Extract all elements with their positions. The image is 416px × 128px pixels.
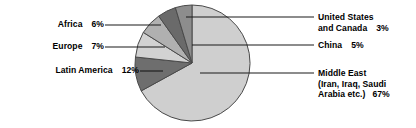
label-europe-value: 7% [91, 41, 104, 52]
label-united-states-canada: United States and Canada3% [318, 12, 414, 33]
label-china-value: 5% [351, 40, 364, 51]
label-united-states-line2: and Canada [318, 23, 367, 33]
label-latin-america: Latin America12% [8, 65, 139, 76]
label-china-name: China [318, 40, 342, 50]
label-africa: Africa6% [8, 19, 104, 30]
label-middle-east-value: 67% [372, 89, 389, 100]
label-middle-east-line2: (Iran, Iraq, Saudi [318, 79, 416, 90]
label-latin-america-name: Latin America [55, 65, 112, 75]
label-africa-name: Africa [58, 19, 83, 29]
label-united-states-line1: United States [318, 12, 414, 23]
pie-chart-figure: Africa6% Europe7% Latin America12% Unite… [0, 0, 416, 128]
label-latin-america-value: 12% [122, 65, 139, 76]
label-europe-name: Europe [53, 41, 83, 51]
label-united-states-value: 3% [376, 23, 389, 34]
label-africa-value: 6% [91, 19, 104, 30]
label-china: China5% [318, 40, 414, 51]
label-middle-east-line3: Arabia etc.) [318, 89, 365, 99]
label-middle-east-line1: Middle East [318, 68, 416, 79]
label-europe: Europe7% [8, 41, 104, 52]
label-middle-east: Middle East (Iran, Iraq, Saudi Arabia et… [318, 68, 416, 100]
